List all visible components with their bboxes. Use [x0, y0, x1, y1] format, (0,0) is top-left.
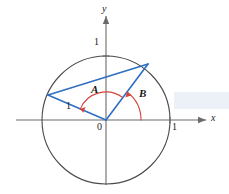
y-axis-label: y — [102, 4, 106, 14]
glare-highlight — [174, 92, 229, 109]
origin-label: 0 — [97, 122, 102, 132]
x-axis-arrowhead — [198, 117, 206, 123]
y-axis-tick-label: 1 — [94, 37, 99, 47]
y-axis-arrowhead — [103, 16, 109, 24]
x-axis-tick-label: 1 — [172, 122, 177, 132]
ray-to-terminal-a — [48, 95, 106, 120]
angle-a-label: A — [91, 84, 98, 95]
angle-b-label: B — [139, 88, 146, 99]
figure-container: x y 1 1 0 1 A B — [0, 0, 229, 194]
x-axis-label: x — [211, 113, 215, 123]
unit-circle-figure — [0, 0, 229, 194]
radius-length-label: 1 — [66, 101, 71, 111]
